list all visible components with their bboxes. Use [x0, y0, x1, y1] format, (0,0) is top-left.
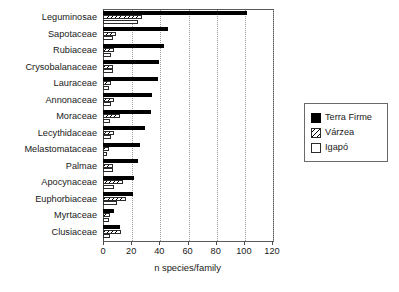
legend-label-igapo: Igapó — [325, 142, 348, 153]
bar-varzea — [103, 114, 120, 118]
x-axis-tick-label: 0 — [100, 246, 105, 257]
bar-terra — [103, 77, 158, 81]
legend-swatch-terra-firme — [311, 113, 321, 123]
bar-igapo — [103, 119, 110, 123]
y-axis-category-labels: LeguminosaeSapotaceaeRubiaceaeCrysobalan… — [0, 9, 100, 240]
bar-group — [103, 176, 272, 189]
bar-groups — [103, 9, 272, 240]
y-axis-label: Sapotaceae — [48, 29, 97, 39]
x-axis-tick-label: 100 — [236, 246, 251, 257]
legend-label-varzea: Várzea — [325, 127, 354, 138]
y-axis-label: Myrtaceae — [54, 210, 97, 220]
bar-igapo — [103, 53, 111, 57]
bar-terra — [103, 93, 152, 97]
x-axis-tick — [159, 241, 160, 245]
bar-varzea — [103, 65, 113, 69]
bar-varzea — [103, 147, 109, 151]
bar-varzea — [103, 81, 111, 85]
bar-igapo — [103, 218, 109, 222]
legend-swatch-igapo — [311, 143, 321, 153]
chart-legend: Terra Firme Várzea Igapó — [304, 103, 388, 162]
bar-terra — [103, 159, 138, 163]
x-axis-tick-label: 60 — [182, 246, 192, 257]
bar-group — [103, 44, 272, 57]
bar-group — [103, 126, 272, 139]
x-axis-tick — [272, 241, 273, 245]
bar-varzea — [103, 213, 110, 217]
bar-igapo — [103, 102, 111, 106]
x-axis-title: n species/family — [103, 262, 272, 273]
y-axis-label: Moraceae — [56, 111, 97, 121]
legend-item-varzea: Várzea — [311, 125, 382, 140]
bar-terra — [103, 143, 140, 147]
y-axis-label: Clusiaceae — [52, 227, 97, 237]
y-axis-label: Melastomataceae — [24, 144, 97, 154]
y-axis-label: Rubiaceae — [53, 45, 97, 55]
bar-igapo — [103, 36, 113, 40]
bar-varzea — [103, 180, 123, 184]
bar-igapo — [103, 185, 114, 189]
bar-igapo — [103, 201, 117, 205]
bar-varzea — [103, 197, 126, 201]
bar-terra — [103, 176, 134, 180]
chart-figure: LeguminosaeSapotaceaeRubiaceaeCrysobalan… — [0, 0, 399, 292]
bar-terra — [103, 110, 151, 114]
x-axis-tick-label: 80 — [211, 246, 221, 257]
bar-terra — [103, 11, 247, 15]
bar-group — [103, 77, 272, 90]
y-axis-label: Crysobalanaceae — [25, 62, 97, 72]
legend-swatch-varzea — [311, 128, 321, 138]
bar-igapo — [103, 20, 138, 24]
y-axis-label: Euphorbiaceae — [35, 194, 97, 204]
bar-varzea — [103, 131, 114, 135]
bar-terra — [103, 60, 159, 64]
bar-terra — [103, 209, 114, 213]
bar-terra — [103, 225, 120, 229]
bar-igapo — [103, 152, 107, 156]
x-axis-tick — [103, 241, 104, 245]
bar-varzea — [103, 164, 113, 168]
y-axis-label: Leguminosae — [42, 12, 97, 22]
gridline — [273, 10, 274, 241]
bar-group — [103, 209, 272, 222]
legend-item-terra-firme: Terra Firme — [311, 110, 382, 125]
bar-varzea — [103, 230, 121, 234]
y-axis-label: Apocynaceae — [41, 177, 97, 187]
bar-igapo — [103, 135, 111, 139]
y-axis-label: Annonaceae — [45, 95, 97, 105]
bar-igapo — [103, 69, 113, 73]
bar-group — [103, 60, 272, 73]
x-axis-tick — [188, 241, 189, 245]
bar-group — [103, 93, 272, 106]
bar-group — [103, 110, 272, 123]
legend-item-igapo: Igapó — [311, 140, 382, 155]
bar-group — [103, 192, 272, 205]
bar-group — [103, 159, 272, 172]
y-axis-label: Palmae — [66, 161, 97, 171]
bar-varzea — [103, 32, 116, 36]
y-axis-label: Lecythidaceae — [38, 128, 97, 138]
y-axis-label: Lauraceae — [54, 78, 97, 88]
bar-varzea — [103, 48, 114, 52]
x-axis-tick-label: 20 — [126, 246, 136, 257]
bar-varzea — [103, 98, 114, 102]
x-axis-tick — [244, 241, 245, 245]
bar-terra — [103, 126, 145, 130]
bar-igapo — [103, 168, 113, 172]
bar-terra — [103, 44, 164, 48]
legend-label-terra-firme: Terra Firme — [325, 112, 372, 123]
bar-igapo — [103, 86, 109, 90]
x-axis-tick-label: 40 — [154, 246, 164, 257]
bar-group — [103, 11, 272, 24]
bar-group — [103, 143, 272, 156]
bar-group — [103, 27, 272, 40]
x-axis-tick — [216, 241, 217, 245]
x-axis-tick-label: 120 — [264, 246, 279, 257]
bar-terra — [103, 192, 133, 196]
bar-group — [103, 225, 272, 238]
bar-igapo — [103, 234, 110, 238]
x-axis-tick — [131, 241, 132, 245]
bar-terra — [103, 27, 168, 31]
bar-varzea — [103, 15, 142, 19]
